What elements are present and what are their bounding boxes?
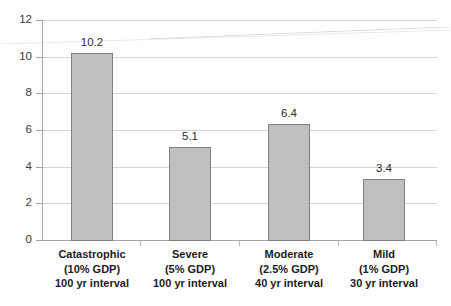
- bar-value-severe: 5.1: [182, 131, 198, 143]
- y-axis-line: [42, 20, 43, 241]
- category-interval-moderate: 40 yr interval: [255, 276, 323, 291]
- y-axis-label-4: 4: [6, 161, 32, 173]
- category-name-mild: Mild: [350, 247, 418, 262]
- category-label-moderate: Moderate (2.5% GDP) 40 yr interval: [255, 247, 323, 291]
- x-tick-mark-4: [436, 241, 437, 246]
- bar-severe[interactable]: [169, 147, 211, 241]
- category-label-mild: Mild (1% GDP) 30 yr interval: [350, 247, 418, 291]
- bar-value-mild: 3.4: [376, 163, 392, 175]
- y-tick-mark-8: [36, 93, 42, 94]
- category-name-moderate: Moderate: [255, 247, 323, 262]
- y-axis-label-8: 8: [6, 88, 32, 100]
- y-axis-label-2: 2: [6, 198, 32, 210]
- category-interval-severe: 100 yr interval: [153, 276, 227, 291]
- x-tick-mark-3: [338, 241, 339, 246]
- bar-value-moderate: 6.4: [281, 108, 297, 120]
- x-tick-mark-2: [239, 241, 240, 246]
- gridline-12: [42, 20, 437, 21]
- bar-moderate[interactable]: [268, 124, 310, 241]
- category-gdp-mild: (1% GDP): [350, 262, 418, 277]
- y-tick-mark-0: [36, 240, 42, 241]
- category-interval-catastrophic: 100 yr interval: [55, 276, 129, 291]
- category-gdp-catastrophic: (10% GDP): [55, 262, 129, 277]
- y-axis-label-10: 10: [6, 51, 32, 63]
- y-tick-mark-6: [36, 130, 42, 131]
- category-name-catastrophic: Catastrophic: [55, 247, 129, 262]
- category-label-severe: Severe (5% GDP) 100 yr interval: [153, 247, 227, 291]
- y-tick-mark-2: [36, 203, 42, 204]
- category-gdp-severe: (5% GDP): [153, 262, 227, 277]
- y-axis-label-6: 6: [6, 124, 32, 136]
- y-tick-mark-12: [36, 20, 42, 21]
- y-axis-label-12: 12: [6, 14, 32, 26]
- bar-catastrophic[interactable]: [71, 53, 113, 241]
- category-label-catastrophic: Catastrophic (10% GDP) 100 yr interval: [55, 247, 129, 291]
- category-interval-mild: 30 yr interval: [350, 276, 418, 291]
- y-tick-mark-10: [36, 57, 42, 58]
- bar-value-catastrophic: 10.2: [81, 37, 103, 49]
- bar-chart: 12 10 8 6 4 2 0 10.2 5.1 6.4 3.4 Catastr…: [0, 0, 451, 306]
- y-axis-label-0: 0: [6, 234, 32, 246]
- x-tick-mark-1: [140, 241, 141, 246]
- y-tick-mark-4: [36, 167, 42, 168]
- category-name-severe: Severe: [153, 247, 227, 262]
- bar-mild[interactable]: [363, 179, 405, 241]
- category-gdp-moderate: (2.5% GDP): [255, 262, 323, 277]
